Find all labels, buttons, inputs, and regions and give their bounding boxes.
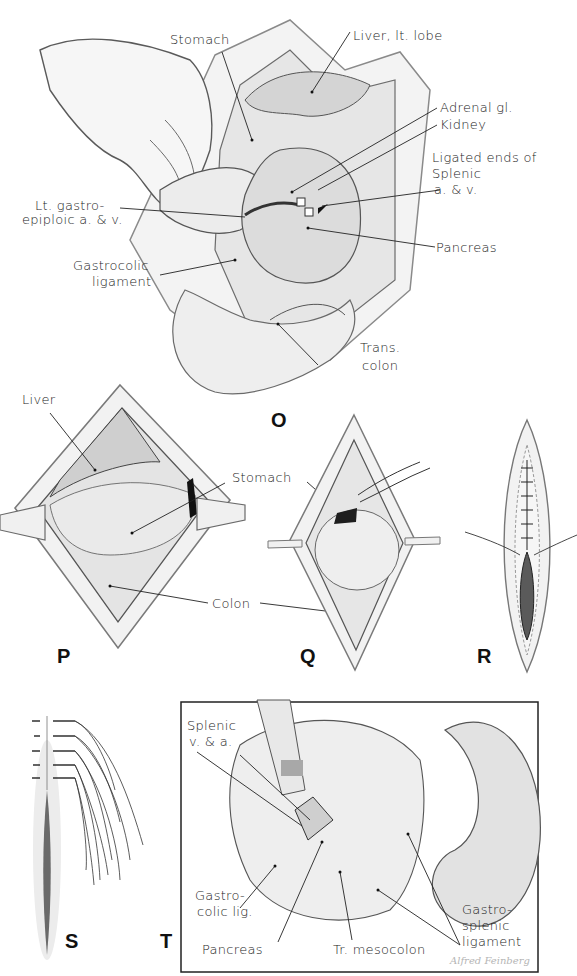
- label-t-gastrocolic-line2: colic lig.: [197, 904, 253, 919]
- label-t-tr-mesocolon: Tr. mesocolon: [333, 942, 426, 957]
- panel-letter-r: R: [477, 645, 491, 668]
- label-pancreas: Pancreas: [436, 240, 497, 255]
- label-lt-gastro-line2: epiploic a. & v.: [22, 212, 123, 227]
- label-ligated-ends-line3: a. & v.: [434, 182, 477, 197]
- label-p-colon: Colon: [212, 596, 250, 611]
- label-ligated-ends-line2: Splenic: [432, 166, 481, 181]
- panel-letter-t: T: [160, 930, 172, 953]
- label-t-splenic-line2: v. & a.: [189, 734, 232, 749]
- label-gastrocolic-line2: ligament: [92, 274, 151, 289]
- label-p-liver: Liver: [22, 392, 55, 407]
- label-stomach: Stomach: [170, 32, 229, 47]
- label-t-gastrocolic-line1: Gastro-: [195, 888, 245, 903]
- label-t-splenic-line1: Splenic: [187, 718, 236, 733]
- label-gastrocolic-line1: Gastrocolic: [73, 258, 149, 273]
- artist-signature: Alfred Feinberg: [450, 955, 530, 966]
- label-t-gastrosplenic-line2: splenic: [462, 918, 510, 933]
- label-lt-gastro-line1: Lt. gastro-: [35, 198, 105, 213]
- label-trans-colon-line1: Trans.: [360, 340, 400, 355]
- label-kidney: Kidney: [440, 117, 486, 132]
- panel-o: Stomach Liver, lt. lobe Adrenal gl. Kidn…: [0, 0, 577, 400]
- label-ligated-ends-line1: Ligated ends of: [432, 150, 537, 165]
- label-liver-lt-lobe: Liver, lt. lobe: [353, 28, 442, 43]
- panel-letter-q: Q: [300, 645, 316, 668]
- label-t-pancreas: Pancreas: [202, 942, 263, 957]
- panel-letter-s: S: [65, 930, 78, 953]
- label-p-stomach: Stomach: [232, 470, 291, 485]
- panel-letter-o: O: [271, 409, 287, 432]
- label-t-gastrosplenic-line3: ligament: [462, 934, 521, 949]
- panel-letter-p: P: [57, 645, 70, 668]
- label-t-gastrosplenic-line1: Gastro-: [462, 902, 512, 917]
- label-adrenal-gl: Adrenal gl.: [440, 100, 513, 115]
- label-trans-colon-line2: colon: [362, 358, 398, 373]
